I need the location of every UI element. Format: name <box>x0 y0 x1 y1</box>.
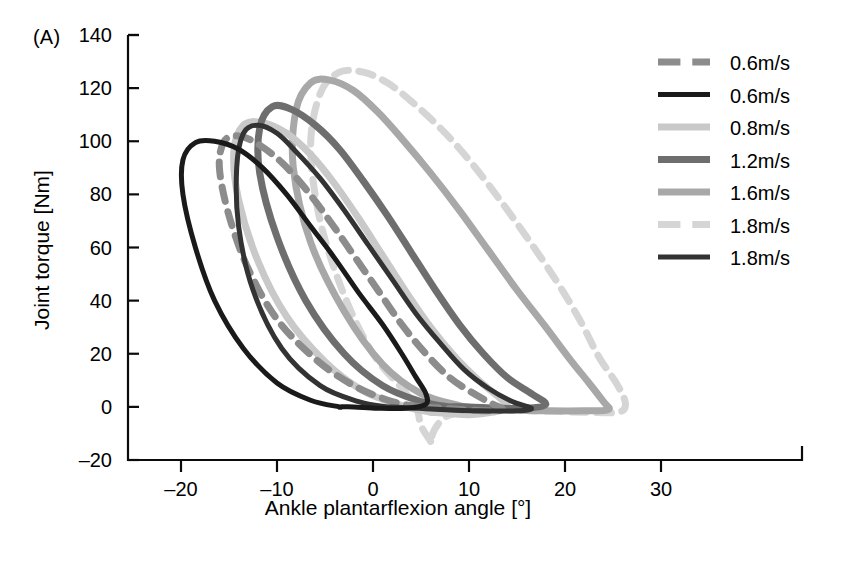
curve-1-6m-s-4 <box>292 79 609 411</box>
x-tick-label: 10 <box>458 478 480 500</box>
legend-label-4[interactable]: 1.6m/s <box>730 182 790 204</box>
y-tick-label: 100 <box>79 130 112 152</box>
y-tick-label: 60 <box>90 237 112 259</box>
y-tick-label: 80 <box>90 183 112 205</box>
y-tick-label: 140 <box>79 24 112 46</box>
legend-group[interactable]: 0.6m/s0.6m/s0.8m/s1.2m/s1.6m/s1.8m/s1.8m… <box>658 52 790 269</box>
legend-label-2[interactable]: 0.8m/s <box>730 117 790 139</box>
y-tick-label: 0 <box>101 396 112 418</box>
x-tick-label: –10 <box>260 478 293 500</box>
legend-label-0[interactable]: 0.6m/s <box>730 52 790 74</box>
y-tick-label: 120 <box>79 77 112 99</box>
x-tick-label: 20 <box>554 478 576 500</box>
legend-label-3[interactable]: 1.2m/s <box>730 150 790 172</box>
x-tick-label: 30 <box>650 478 672 500</box>
legend-label-1[interactable]: 0.6m/s <box>730 85 790 107</box>
figure-panel: (A) Joint torque [Nm] Ankle plantarflexi… <box>0 0 853 562</box>
legend-label-6[interactable]: 1.8m/s <box>730 247 790 269</box>
tick-labels-group: –20020406080100120140–20–100102030 <box>79 24 673 500</box>
curves-group <box>181 70 625 443</box>
x-tick-label: 0 <box>367 478 378 500</box>
y-tick-label: 20 <box>90 343 112 365</box>
x-tick-label: –20 <box>164 478 197 500</box>
curve-1-2m-s-3 <box>258 105 546 408</box>
legend-label-5[interactable]: 1.8m/s <box>730 215 790 237</box>
y-tick-label: 40 <box>90 290 112 312</box>
y-tick-label: –20 <box>79 449 112 471</box>
plot-svg: –20020406080100120140–20–100102030 0.6m/… <box>0 0 853 562</box>
